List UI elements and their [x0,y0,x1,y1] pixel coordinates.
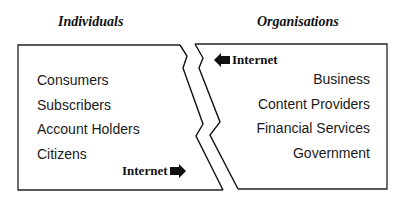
organisations-heading: Organisations [257,14,339,30]
internet-label: Internet [122,163,168,179]
left-box-outline [18,45,223,190]
organisation-item: Financial Services [256,120,370,136]
internet-inbound: Internet [214,52,278,68]
arrow-left-icon [214,53,230,67]
individual-item: Account Holders [37,121,140,137]
internet-label: Internet [232,52,278,68]
organisation-item: Business [313,71,370,87]
organisation-item: Government [293,145,370,161]
organisation-item: Content Providers [258,96,370,112]
individuals-heading: Individuals [58,14,123,30]
arrow-right-icon [170,164,186,178]
internet-outbound: Internet [122,163,186,179]
individual-item: Consumers [37,72,109,88]
individual-item: Citizens [37,146,87,162]
individual-item: Subscribers [37,97,111,113]
